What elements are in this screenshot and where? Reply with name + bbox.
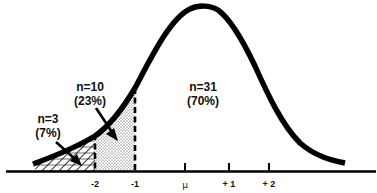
- tick-label-plus-1: + 1: [223, 179, 236, 189]
- label-n31: n=31: [189, 80, 217, 94]
- tick-label-minus-2: -2: [91, 179, 99, 189]
- label-n10: n=10: [76, 80, 104, 94]
- label-pct-70: (70%): [187, 94, 219, 108]
- tick-label-minus-1: -1: [131, 179, 139, 189]
- label-pct-7: (7%): [35, 126, 60, 140]
- tick-label-plus-2: + 2: [263, 179, 276, 189]
- normal-distribution-figure: n=3 (7%) n=10 (23%) n=31 (70%) -2 -1 μ +…: [0, 0, 377, 193]
- label-n3: n=3: [37, 112, 58, 126]
- label-pct-23: (23%): [74, 94, 106, 108]
- tick-label-mu: μ: [182, 180, 188, 190]
